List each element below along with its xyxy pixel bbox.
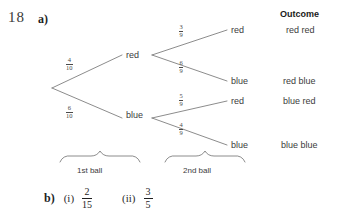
worksheet-page: 18 a) red blue red blue red blue 4 10 — [0, 0, 349, 216]
fraction-denominator: 9 — [179, 68, 183, 75]
probability-stage2-blue-red: 5 9 — [179, 93, 183, 108]
outcome-red-blue: red blue — [283, 76, 316, 86]
stage1-brace-label: 1st ball — [77, 166, 102, 175]
fraction-denominator: 10 — [66, 113, 73, 120]
probability-stage1-blue: 6 10 — [66, 105, 73, 120]
probability-stage2-red-red: 3 9 — [179, 24, 183, 39]
answers-row: b) (i) 2 15 (ii) 3 5 — [44, 186, 153, 210]
answer-i-roman: (i) — [64, 192, 74, 204]
tree-node-stage2-blue-blue: blue — [231, 140, 248, 150]
outcome-red-red: red red — [286, 25, 315, 35]
answer-i-fraction: 2 15 — [82, 186, 92, 210]
tree-node-stage2-red-red: red — [231, 25, 244, 35]
fraction-denominator: 10 — [66, 65, 73, 72]
fraction-denominator: 9 — [179, 130, 183, 137]
fraction-numerator: 2 — [82, 186, 92, 199]
tree-node-stage1-blue: blue — [126, 110, 143, 120]
tree-node-stage1-red: red — [126, 50, 139, 60]
part-a-label: a) — [38, 12, 48, 27]
fraction-denominator: 15 — [82, 199, 92, 211]
tree-node-stage2-red-blue: blue — [231, 76, 248, 86]
tree-node-stage2-blue-red: red — [231, 96, 244, 106]
probability-stage1-red: 4 10 — [66, 57, 73, 72]
answer-ii-roman: (ii) — [122, 192, 135, 204]
fraction-denominator: 9 — [179, 101, 183, 108]
probability-stage2-red-blue: 6 9 — [179, 60, 183, 75]
probability-stage2-blue-blue: 4 9 — [179, 122, 183, 137]
question-number: 18 — [8, 9, 25, 26]
answer-ii-fraction: 3 5 — [144, 186, 153, 210]
fraction-denominator: 5 — [144, 199, 153, 211]
outcome-column-heading: Outcome — [280, 9, 319, 19]
part-b-label: b) — [44, 191, 55, 206]
outcome-blue-blue: blue blue — [281, 140, 318, 150]
fraction-numerator: 3 — [144, 186, 153, 199]
stage2-brace-label: 2nd ball — [183, 166, 211, 175]
fraction-denominator: 9 — [179, 32, 183, 39]
outcome-blue-red: blue red — [283, 96, 316, 106]
answer-i: (i) 2 15 — [64, 186, 92, 210]
answer-ii: (ii) 3 5 — [122, 186, 152, 210]
